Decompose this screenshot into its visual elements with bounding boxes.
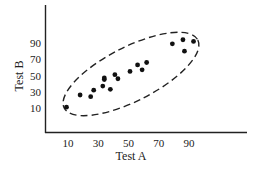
data-point: [116, 76, 121, 81]
data-point: [140, 67, 145, 72]
x-tick-label: 50: [123, 137, 135, 149]
data-point: [135, 63, 140, 68]
y-axis-label: Test B: [12, 61, 26, 92]
scatter-chart: 1030507090 1030507090 Test A Test B: [0, 0, 261, 169]
data-point: [128, 69, 133, 74]
data-point: [112, 72, 117, 77]
x-tick-label: 30: [93, 137, 105, 149]
x-axis-label: Test A: [116, 149, 147, 163]
y-tick-label: 10: [30, 102, 42, 114]
data-point: [108, 87, 113, 92]
y-tick-label: 30: [30, 86, 42, 98]
x-tick-label: 10: [63, 137, 75, 149]
data-point: [78, 93, 83, 98]
y-tick-label: 90: [30, 37, 42, 49]
data-point: [102, 76, 107, 81]
x-tick-labels: 1030507090: [63, 137, 196, 149]
data-point: [181, 37, 186, 42]
x-tick-label: 90: [184, 137, 196, 149]
data-point: [191, 39, 196, 44]
x-tick-label: 70: [153, 137, 165, 149]
dashed-ellipse: [52, 16, 210, 132]
y-tick-label: 70: [30, 53, 42, 65]
data-point: [100, 84, 105, 89]
data-point: [170, 41, 175, 46]
data-point: [88, 94, 93, 99]
y-tick-labels: 1030507090: [30, 37, 42, 114]
data-point: [64, 105, 69, 110]
data-point: [144, 60, 149, 65]
y-tick-label: 50: [30, 70, 42, 82]
axes: [45, 5, 247, 133]
data-point: [182, 49, 187, 54]
data-point: [91, 88, 96, 93]
